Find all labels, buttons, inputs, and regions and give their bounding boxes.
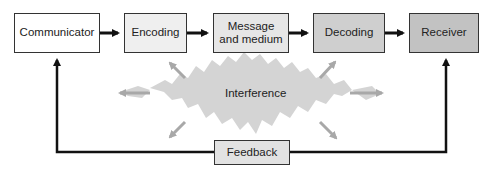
node-message-label-line2: and medium (219, 33, 282, 46)
noise-arrow-encoding (170, 63, 185, 78)
node-encoding: Encoding (124, 13, 187, 53)
noise-arrow-down-left (170, 122, 185, 137)
node-feedback: Feedback (214, 140, 290, 165)
node-message-label-line1: Message (228, 20, 275, 33)
node-feedback-label: Feedback (227, 146, 278, 159)
node-communicator: Communicator (14, 13, 100, 53)
noise-arrow-down-right (320, 122, 336, 138)
node-decoding: Decoding (313, 13, 385, 53)
feedback-line-right (290, 60, 446, 152)
node-receiver-label: Receiver (421, 26, 466, 39)
node-decoding-label: Decoding (325, 26, 374, 39)
node-encoding-label: Encoding (132, 26, 180, 39)
interference-label: Interference (225, 87, 286, 99)
node-communicator-label: Communicator (20, 26, 95, 39)
node-receiver: Receiver (409, 13, 479, 53)
noise-arrow-decoding (320, 62, 335, 78)
node-message-and-medium: Message and medium (213, 13, 289, 53)
